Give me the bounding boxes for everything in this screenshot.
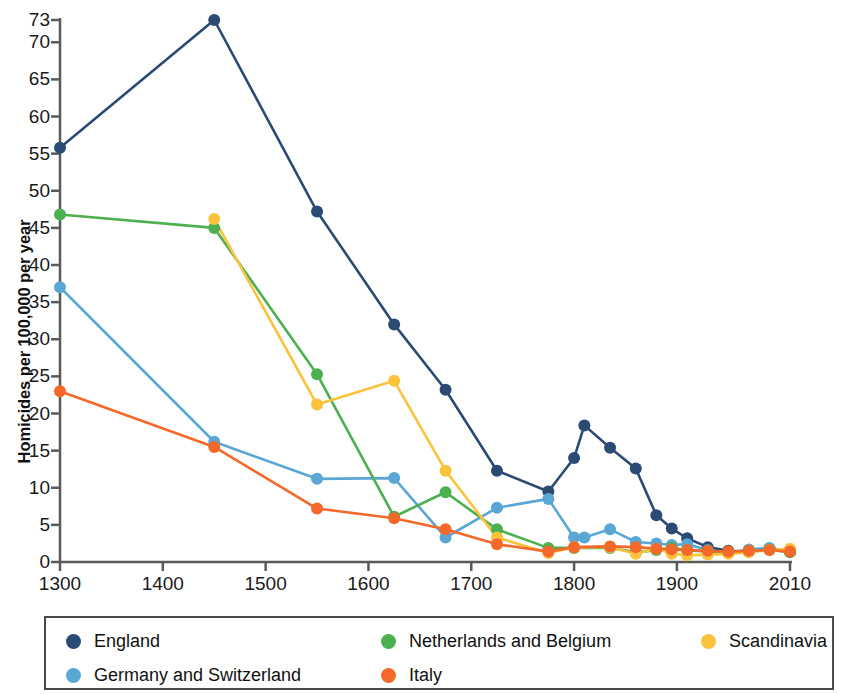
chart-legend: EnglandNetherlands and BelgiumScandinavi… [44, 616, 834, 690]
data-point [208, 441, 220, 453]
data-point [311, 503, 323, 515]
data-point [54, 281, 66, 293]
data-point [650, 509, 662, 521]
x-tick-label: 1800 [534, 574, 614, 593]
series-line [60, 20, 790, 552]
data-point [702, 545, 714, 557]
legend-item-label: Italy [409, 666, 442, 684]
x-tick-label: 1500 [226, 574, 306, 593]
plot-area: 051015202530354045505560657073 130014001… [0, 0, 845, 600]
data-point [578, 419, 590, 431]
data-point [311, 473, 323, 485]
data-point [388, 472, 400, 484]
data-point [650, 543, 662, 555]
legend-swatch-dot-icon [381, 668, 396, 683]
data-point [604, 540, 616, 552]
x-tick-label: 1900 [637, 574, 717, 593]
data-point [311, 368, 323, 380]
data-point [311, 399, 323, 411]
legend-item[interactable]: Netherlands and Belgium [381, 632, 611, 650]
data-point [491, 502, 503, 514]
data-point [568, 541, 580, 553]
x-tick-label: 1700 [431, 574, 511, 593]
data-point [666, 543, 678, 555]
series-points [54, 14, 796, 561]
data-point [491, 465, 503, 477]
data-point [208, 14, 220, 26]
tick-marks [51, 20, 790, 571]
legend-item-label: Netherlands and Belgium [409, 632, 611, 650]
data-point [604, 442, 616, 454]
data-point [54, 209, 66, 221]
data-point [604, 523, 616, 535]
axis-lines [60, 18, 792, 562]
legend-item[interactable]: Germany and Switzerland [66, 666, 301, 684]
data-point [578, 532, 590, 544]
data-point [743, 545, 755, 557]
data-point [666, 523, 678, 535]
y-axis-title: Homicides per 100,000 per year [15, 122, 34, 562]
series-line [60, 215, 790, 553]
legend-item-label: England [94, 632, 160, 650]
data-point [54, 142, 66, 154]
data-point [440, 384, 452, 396]
legend-swatch-dot-icon [381, 634, 396, 649]
homicide-rate-line-chart: 051015202530354045505560657073 130014001… [0, 0, 845, 694]
data-point [311, 206, 323, 218]
chart-canvas [0, 0, 845, 600]
x-axis-tick-labels: 13001400150016001700180019002010 [0, 570, 845, 600]
data-point [440, 523, 452, 535]
data-point [542, 546, 554, 558]
data-point [722, 546, 734, 558]
legend-item[interactable]: Italy [381, 666, 442, 684]
legend-swatch-dot-icon [701, 634, 716, 649]
series-line [60, 287, 790, 553]
data-point [388, 375, 400, 387]
legend-item[interactable]: Scandinavia [701, 632, 827, 650]
data-point [388, 512, 400, 524]
data-point [54, 385, 66, 397]
x-tick-label: 2010 [750, 574, 830, 593]
data-point [491, 538, 503, 550]
series-lines [60, 20, 790, 555]
data-point [681, 544, 693, 556]
data-point [440, 486, 452, 498]
data-point [630, 462, 642, 474]
data-point [784, 546, 796, 558]
data-point [388, 318, 400, 330]
legend-swatch-dot-icon [66, 634, 81, 649]
legend-item-label: Scandinavia [729, 632, 827, 650]
legend-swatch-dot-icon [66, 668, 81, 683]
data-point [763, 544, 775, 556]
data-point [542, 493, 554, 505]
data-point [568, 452, 580, 464]
series-line [60, 391, 790, 551]
x-tick-label: 1600 [328, 574, 408, 593]
x-tick-label: 1400 [123, 574, 203, 593]
data-point [440, 465, 452, 477]
legend-item-label: Germany and Switzerland [94, 666, 301, 684]
legend-item[interactable]: England [66, 632, 160, 650]
legend-grid: EnglandNetherlands and BelgiumScandinavi… [46, 618, 832, 688]
data-point [630, 541, 642, 553]
x-tick-label: 1300 [20, 574, 100, 593]
data-point [208, 213, 220, 225]
